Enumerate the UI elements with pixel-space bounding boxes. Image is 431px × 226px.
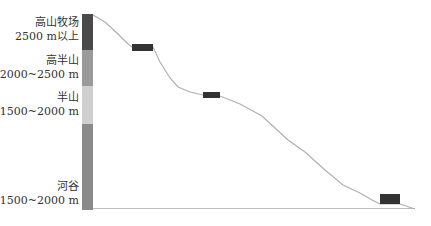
settlement-block-mid bbox=[203, 92, 220, 98]
settlement-block-valley bbox=[380, 194, 400, 204]
settlement-block-upper bbox=[132, 44, 153, 51]
terrain-profile bbox=[0, 0, 431, 226]
